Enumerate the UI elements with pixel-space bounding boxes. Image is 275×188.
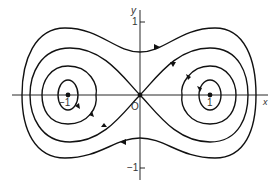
arrow-icon bbox=[101, 123, 107, 127]
arrow-icon bbox=[120, 139, 126, 145]
origin-label: O bbox=[131, 102, 139, 112]
x-tick-pos-label: 1 bbox=[207, 98, 213, 108]
y-tick-neg-label: −1 bbox=[127, 163, 138, 173]
equilibrium-origin bbox=[138, 93, 143, 98]
x-axis-label: x bbox=[263, 98, 268, 107]
x-tick-neg-label: −1 bbox=[59, 98, 70, 108]
arrow-icon bbox=[170, 62, 176, 67]
y-tick-pos-label: 1 bbox=[132, 17, 138, 27]
phase-portrait bbox=[0, 0, 275, 188]
y-axis-label: y bbox=[131, 6, 136, 16]
arrow-icon bbox=[89, 111, 94, 117]
